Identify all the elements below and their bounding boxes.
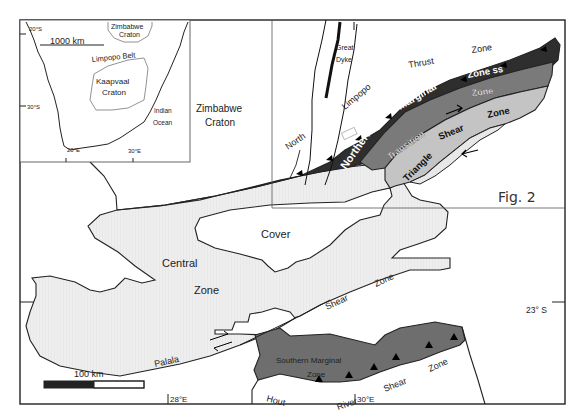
inset-lon-20e: 20°E [67, 147, 80, 153]
scale-bar [44, 381, 144, 388]
inset-lat-20s: 20°S [29, 26, 42, 32]
inset-kaapvaal-label-1: Kaapvaal [96, 77, 130, 86]
central-zone-label-2: Zone [194, 284, 219, 296]
figure-label: Fig. 2 [498, 189, 536, 205]
zimbabwe-craton-label-1: Zimbabwe [196, 103, 243, 114]
inset-lat-30s: 30°S [27, 104, 40, 110]
inset-ocean-label-1: Indian [154, 107, 172, 114]
lon-label-28e: 28°E [170, 395, 187, 404]
great-dyke-label-2: Dyke [336, 56, 352, 64]
inset-kaapvaal-label-2: Craton [102, 88, 126, 97]
central-zone-label-1: Central [162, 257, 197, 269]
inset-zimbabwe-label-1: Zimbabwe [111, 23, 143, 30]
inset-scale-label: 1000 km [50, 36, 85, 46]
scale-bar-label: 100 km [74, 369, 104, 379]
zimbabwe-craton-label-2: Craton [205, 117, 235, 128]
geological-map: 20°S 30°S 20°E 30°E 1000 km Zimbabwe Cra… [0, 0, 577, 419]
inset-zimbabwe-label-2: Craton [119, 31, 140, 38]
inset-ocean-label-2: Ocean [153, 119, 173, 126]
great-dyke-label-1: Great [336, 44, 354, 51]
smz-label-2: Zone [307, 370, 326, 379]
inset-lon-30e: 30°E [128, 148, 141, 154]
smz-label-1: Southern Marginal [276, 356, 342, 365]
lat-label-23s: 23° S [526, 305, 547, 315]
cover-label: Cover [261, 228, 291, 240]
lon-label-30e: 30°E [357, 395, 374, 404]
